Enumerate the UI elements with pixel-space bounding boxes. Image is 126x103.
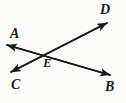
geometry-figure: A D C B E [0,0,126,103]
line-segment-ab-toward-b [7,45,110,75]
line-segment-cd-toward-d [11,23,107,72]
point-label-a: A [10,27,19,41]
point-label-e: E [43,56,52,69]
point-label-d: D [100,3,110,17]
point-label-c: C [11,78,20,92]
point-label-b: B [105,80,114,94]
